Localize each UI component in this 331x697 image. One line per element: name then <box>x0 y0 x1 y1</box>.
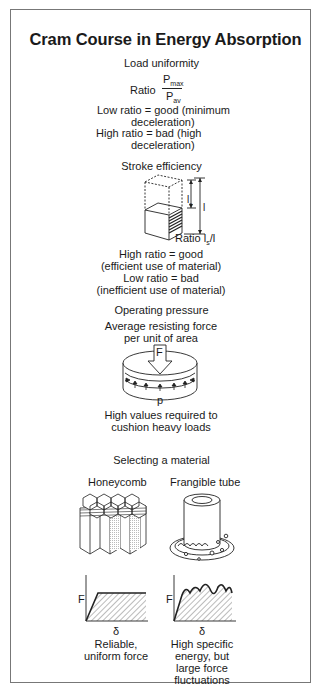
honeycomb-force-plot <box>82 573 150 625</box>
material-name-honeycomb: Honeycomb <box>88 476 147 488</box>
honeycomb-caption-1: Reliable, <box>80 638 152 650</box>
honeycomb-illustration <box>78 490 148 562</box>
stroke-text-2: (efficient use of material) <box>0 260 322 272</box>
frangible-caption-2: energy, but <box>166 650 238 662</box>
honeycomb-caption-2: uniform force <box>80 650 152 662</box>
frangible-tube-illustration <box>166 490 238 570</box>
label-l: l <box>203 202 205 214</box>
pressure-text-1: High values required to <box>0 409 322 421</box>
honeycomb-x-label: δ <box>113 625 119 637</box>
stroke-ratio-label: Ratio ls/l <box>175 232 215 249</box>
frangible-caption-1: High specific <box>166 638 238 650</box>
material-name-frangible-tube: Frangible tube <box>170 476 240 488</box>
heading-selecting-material: Selecting a material <box>0 454 327 466</box>
frangible-force-plot <box>170 573 238 625</box>
frangible-caption-3: large force <box>166 662 238 674</box>
ratio-label: Ratio <box>130 84 156 96</box>
stroke-text-3: Low ratio = bad <box>0 272 322 284</box>
heading-operating-pressure: Operating pressure <box>0 304 327 316</box>
frangible-caption-4: fluctuations <box>166 674 238 686</box>
stroke-text-1: High ratio = good <box>0 248 322 260</box>
load-text-1: Low ratio = good (minimum <box>97 104 230 116</box>
heading-stroke-efficiency: Stroke efficiency <box>0 160 327 172</box>
frangible-y-label: F <box>166 593 173 605</box>
pressure-text-2: cushion heavy loads <box>0 421 322 433</box>
load-text-3: High ratio = bad (high <box>96 127 201 139</box>
stroke-cube-diagram <box>140 172 210 240</box>
load-text-4: deceleration) <box>131 139 195 151</box>
frangible-x-label: δ <box>199 625 205 637</box>
label-ls: ls <box>187 194 192 210</box>
pressure-label: p <box>157 394 163 406</box>
fraction-bar <box>162 88 182 89</box>
pressure-sub-2: per unit of area <box>0 332 322 344</box>
heading-load-uniformity: Load uniformity <box>0 57 327 69</box>
pressure-sub-1: Average resisting force <box>0 320 322 332</box>
page-title: Cram Course in Energy Absorption <box>0 30 331 49</box>
honeycomb-y-label: F <box>78 593 85 605</box>
force-label: F <box>156 346 163 358</box>
stroke-text-4: (inefficient use of material) <box>0 284 322 296</box>
